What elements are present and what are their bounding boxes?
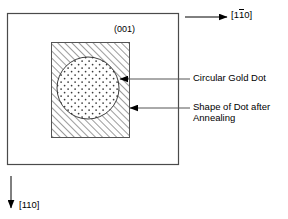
figure-canvas: (001) [110] [110] Circular Gold Dot Shap… xyxy=(0,0,288,219)
direction-label-overbar-digit: 1 xyxy=(239,9,244,20)
vertical-direction-label: [110] xyxy=(19,199,39,210)
annotation-circular-gold-dot: Circular Gold Dot xyxy=(193,72,266,83)
annotation-shape-after-annealing: Shape of Dot afterAnnealing xyxy=(193,101,270,123)
gold-dot-circle xyxy=(57,57,119,119)
annotation-line-1: Shape of Dot after xyxy=(193,101,270,112)
direction-label-suffix: 0] xyxy=(244,9,252,20)
annotation-line-2: Annealing xyxy=(193,112,235,123)
direction-label-prefix: [1 xyxy=(231,9,239,20)
horizontal-direction-label: [110] xyxy=(231,9,252,20)
plane-index-label: (001) xyxy=(114,24,135,35)
